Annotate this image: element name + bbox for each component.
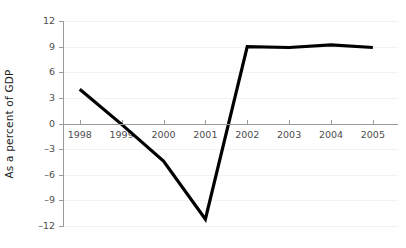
x-tick-label-2005: 2005 (361, 130, 385, 140)
y-tick--9 (59, 200, 63, 201)
gridline-y--6 (63, 175, 398, 176)
x-tick-label-1999: 1999 (110, 130, 134, 140)
y-tick-12 (59, 21, 63, 22)
y-tick--6 (59, 175, 63, 176)
gridline-y-3 (63, 98, 398, 99)
y-axis-title: As a percent of GDP (0, 0, 18, 248)
y-tick-label-0: 0 (49, 119, 55, 129)
x-tick-label-2001: 2001 (193, 130, 217, 140)
y-tick-label--6: –6 (44, 170, 55, 180)
y-tick--12 (59, 226, 63, 227)
gridline-y--9 (63, 200, 398, 201)
gridline-y--3 (63, 149, 398, 150)
y-tick-label-6: 6 (49, 67, 55, 77)
gridline-y--12 (63, 226, 398, 227)
y-tick-3 (59, 98, 63, 99)
x-tick-label-2000: 2000 (151, 130, 175, 140)
y-tick-6 (59, 72, 63, 73)
y-tick-label--9: –9 (44, 195, 55, 205)
y-tick-9 (59, 47, 63, 48)
y-tick-label-3: 3 (49, 93, 55, 103)
y-axis-title-text: As a percent of GDP (3, 69, 15, 178)
y-tick-label--12: –12 (38, 221, 55, 231)
y-tick-label-9: 9 (49, 42, 55, 52)
y-tick-label--3: –3 (44, 144, 55, 154)
x-axis-spine (63, 124, 398, 125)
x-tick-label-1998: 1998 (68, 130, 92, 140)
gridline-y-12 (63, 21, 398, 22)
y-tick-label-12: 12 (43, 16, 55, 26)
gridline-y-9 (63, 47, 398, 48)
chart-figure: As a percent of GDP 129630–3–6–9–12 1998… (0, 0, 406, 248)
x-tick-label-2003: 2003 (277, 130, 301, 140)
x-tick-label-2002: 2002 (235, 130, 259, 140)
gridline-y-6 (63, 72, 398, 73)
x-tick-label-2004: 2004 (319, 130, 343, 140)
y-tick--3 (59, 149, 63, 150)
